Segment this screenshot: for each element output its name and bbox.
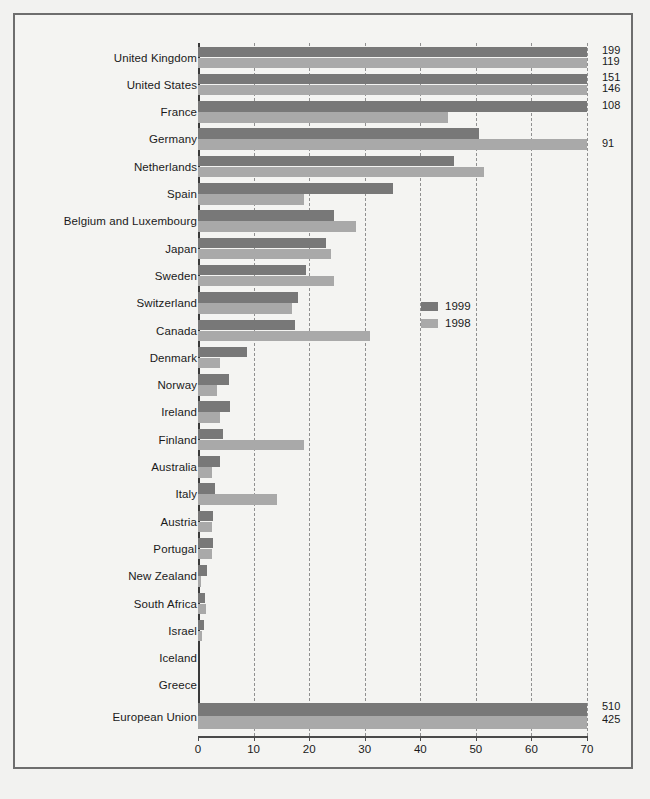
table-row: Switzerland (15, 289, 635, 318)
bar-group (198, 591, 618, 616)
bar-1999 (198, 210, 334, 221)
table-row: United Kingdom199119 (15, 43, 635, 72)
bar-group (198, 263, 618, 288)
data-label-1999: 108 (602, 99, 620, 111)
bar-group (198, 646, 618, 671)
category-label: Portugal (153, 543, 197, 555)
data-label-1998: 91 (602, 137, 614, 149)
bar-1998 (198, 522, 212, 533)
bar-group (198, 482, 618, 507)
bar-1998 (198, 167, 484, 178)
bar-1998 (198, 494, 277, 505)
bar-1999 (198, 101, 587, 112)
table-row: Sweden (15, 261, 635, 290)
legend-label-1999: 1999 (445, 300, 471, 312)
x-tick-label: 70 (581, 743, 594, 755)
chart-frame: United Kingdom199119United States151146F… (13, 13, 633, 769)
x-axis-tick (309, 736, 310, 741)
category-label: Netherlands (134, 161, 197, 173)
bar-group (198, 291, 618, 316)
category-label: Finland (159, 434, 197, 446)
category-label-european-union: European Union (112, 711, 197, 723)
category-label: Denmark (150, 352, 197, 364)
bar-1998-european-union (198, 716, 587, 729)
bar-1998 (198, 358, 220, 369)
bar-group: 199119 (198, 45, 618, 70)
table-row: Netherlands (15, 152, 635, 181)
bar-group: 108 (198, 100, 618, 125)
data-label-1998-european-union: 425 (602, 713, 620, 725)
bar-group (198, 236, 618, 261)
x-tick-label: 30 (358, 743, 371, 755)
category-label: Greece (159, 679, 197, 691)
chart-legend: 1999 1998 (421, 300, 507, 334)
table-row: Finland (15, 425, 635, 454)
legend-swatch-1998-icon (421, 319, 438, 328)
table-row: Iceland (15, 644, 635, 673)
bar-1999 (198, 156, 454, 167)
category-label: Switzerland (136, 297, 197, 309)
table-row: France108 (15, 98, 635, 127)
legend-label-1998: 1998 (445, 317, 471, 329)
table-row: Belgium and Luxembourg (15, 207, 635, 236)
bar-1999 (198, 565, 207, 576)
table-row: Portugal (15, 534, 635, 563)
category-label: United States (127, 79, 197, 91)
bar-1999 (198, 620, 204, 631)
category-label: Belgium and Luxembourg (64, 215, 197, 227)
bar-1998 (198, 139, 587, 150)
table-row: United States151146 (15, 70, 635, 99)
category-label: Israel (168, 625, 197, 637)
table-row: Austria (15, 507, 635, 536)
x-axis-tick (587, 736, 588, 741)
bar-1998 (198, 112, 448, 123)
bar-group-european-union: 510 425 (198, 703, 618, 733)
bar-1998 (198, 549, 212, 560)
bar-group (198, 564, 618, 589)
bar-1999 (198, 183, 393, 194)
x-axis-tick (420, 736, 421, 741)
category-label: Austria (161, 516, 198, 528)
bar-1998 (198, 385, 217, 396)
category-label: United Kingdom (114, 52, 197, 64)
data-label-1999-european-union: 510 (602, 700, 620, 712)
bar-1998 (198, 440, 304, 451)
bar-1998 (198, 249, 331, 260)
bar-group (198, 536, 618, 561)
table-row: Italy (15, 480, 635, 509)
bar-group (198, 455, 618, 480)
bar-group (198, 154, 618, 179)
x-axis-tick (365, 736, 366, 741)
table-row: South Africa (15, 589, 635, 618)
category-label: South Africa (134, 598, 197, 610)
bar-1999 (198, 320, 295, 331)
bar-group: 91 (198, 127, 618, 152)
bar-group (198, 427, 618, 452)
table-row: Australia (15, 453, 635, 482)
bar-group (198, 373, 618, 398)
bar-1998 (198, 331, 370, 342)
bar-1999-european-union (198, 703, 587, 716)
x-tick-label: 0 (195, 743, 201, 755)
table-row: Greece (15, 671, 635, 700)
category-label: Australia (151, 461, 197, 473)
x-axis-tick (476, 736, 477, 741)
bar-1998 (198, 85, 587, 96)
bar-1998 (198, 467, 212, 478)
category-label: Sweden (155, 270, 197, 282)
bar-1999 (198, 47, 587, 58)
bar-group: 151146 (198, 72, 618, 97)
bar-group (198, 400, 618, 425)
category-label: Canada (156, 325, 197, 337)
data-label-1998: 146 (602, 82, 620, 94)
x-tick-label: 20 (303, 743, 316, 755)
x-axis-tick (531, 736, 532, 741)
bar-group (198, 318, 618, 343)
bar-1999 (198, 347, 247, 358)
bar-1998 (198, 604, 206, 615)
x-tick-label: 10 (247, 743, 260, 755)
bar-group (198, 673, 618, 698)
table-row: Israel (15, 616, 635, 645)
bar-1998 (198, 303, 292, 314)
bar-1998 (198, 221, 356, 232)
